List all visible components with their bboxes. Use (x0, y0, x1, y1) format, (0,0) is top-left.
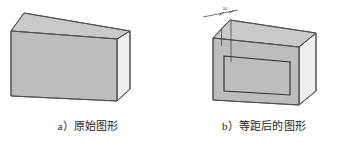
caption-offset-text: b）等距后的图形 (222, 120, 306, 132)
box-front-face (11, 31, 117, 101)
isometric-box-original (0, 0, 176, 120)
caption-offset: b）等距后的图形 (176, 119, 352, 133)
figure-panel-offset: 10 b）等距后的图形 (176, 0, 352, 143)
caption-original-text: a）原始图形 (57, 120, 118, 132)
figure-container: a）原始图形 (0, 0, 352, 143)
caption-original: a）原始图形 (0, 119, 176, 133)
figure-panel-original: a）原始图形 (0, 0, 176, 143)
isometric-box-offset: 10 (176, 0, 352, 120)
dimension-label: 10 (223, 6, 228, 11)
